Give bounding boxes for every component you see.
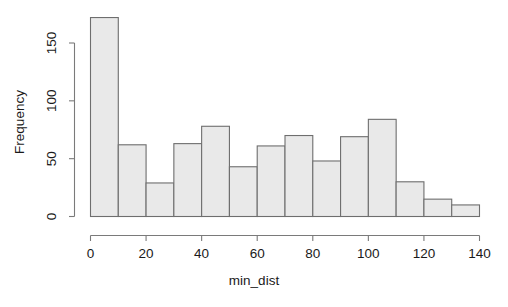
histogram-bar xyxy=(368,119,396,216)
x-axis: 020406080100120140 xyxy=(87,236,491,262)
histogram-bar xyxy=(118,145,146,217)
histogram-bar xyxy=(202,126,230,216)
histogram-bar xyxy=(257,146,285,217)
histogram-bar xyxy=(285,136,313,217)
x-tick-label: 40 xyxy=(194,246,209,261)
x-axis-title: min_dist xyxy=(229,273,280,288)
x-tick-label: 60 xyxy=(250,246,265,261)
x-tick-label: 100 xyxy=(357,246,380,261)
y-tick-label: 50 xyxy=(44,151,59,166)
x-tick-label: 20 xyxy=(139,246,154,261)
histogram-figure: 050100150 020406080100120140 min_dist Fr… xyxy=(0,0,508,307)
x-tick-group: 020406080100120140 xyxy=(87,236,491,262)
histogram-bar xyxy=(452,205,480,217)
histogram-bar xyxy=(313,161,341,217)
x-tick-label: 80 xyxy=(305,246,320,261)
y-axis: 050100150 xyxy=(44,32,75,221)
histogram-bar xyxy=(174,144,202,217)
histogram-bar xyxy=(91,18,119,217)
histogram-bar xyxy=(146,183,174,217)
y-tick-label: 0 xyxy=(44,213,59,221)
histogram-bar xyxy=(341,137,369,217)
y-axis-title: Frequency xyxy=(12,90,27,154)
y-tick-label: 150 xyxy=(44,32,59,55)
x-tick-label: 140 xyxy=(468,246,491,261)
histogram-bar xyxy=(229,167,257,217)
x-tick-label: 120 xyxy=(413,246,436,261)
histogram-bar xyxy=(396,182,424,217)
y-tick-label: 100 xyxy=(44,90,59,113)
y-tick-group: 050100150 xyxy=(44,32,75,221)
histogram-canvas: 050100150 020406080100120140 min_dist Fr… xyxy=(0,0,508,307)
x-tick-label: 0 xyxy=(87,246,95,261)
bars-group xyxy=(91,18,480,217)
histogram-bar xyxy=(424,199,452,216)
